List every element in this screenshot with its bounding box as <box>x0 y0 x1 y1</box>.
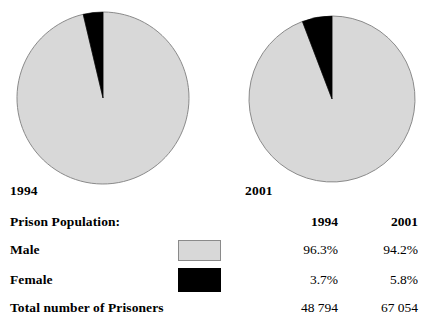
row-label-male: Male <box>0 235 169 265</box>
female-black-swatch <box>178 268 221 292</box>
female-value-2001: 5.8% <box>350 265 430 295</box>
table-header-row: Prison Population: 1994 2001 <box>0 209 430 235</box>
pie-2001-svg <box>247 14 417 184</box>
table: Prison Population: 1994 2001 Male 96.3% … <box>0 209 430 321</box>
prison-population-table: Prison Population: 1994 2001 Male 96.3% … <box>0 209 430 321</box>
table-header-spacer <box>169 209 270 235</box>
table-header-1994: 1994 <box>270 209 350 235</box>
swatch-cell-male <box>169 235 270 265</box>
pie-1994-year-label: 1994 <box>10 183 38 199</box>
table-total-row: Total number of Prisoners 48 794 67 054 <box>0 295 430 321</box>
table-title: Prison Population: <box>0 209 169 235</box>
swatch-cell-female <box>169 265 270 295</box>
total-value-2001: 67 054 <box>350 295 430 321</box>
pie-chart-2001 <box>247 14 417 184</box>
pie-chart-1994 <box>15 10 191 186</box>
male-value-2001: 94.2% <box>350 235 430 265</box>
row-label-female: Female <box>0 265 169 295</box>
total-value-1994: 48 794 <box>270 295 350 321</box>
total-spacer <box>169 295 270 321</box>
male-value-1994: 96.3% <box>270 235 350 265</box>
row-label-total: Total number of Prisoners <box>0 295 169 321</box>
pie-2001-year-label: 2001 <box>245 183 273 199</box>
prison-population-figure: 1994 2001 Prison Population: 1994 2001 <box>0 0 430 331</box>
pie-1994-svg <box>15 10 191 186</box>
table-row: Male 96.3% 94.2% <box>0 235 430 265</box>
table-header-2001: 2001 <box>350 209 430 235</box>
table-row: Female 3.7% 5.8% <box>0 265 430 295</box>
male-gray-swatch <box>178 240 221 261</box>
female-value-1994: 3.7% <box>270 265 350 295</box>
